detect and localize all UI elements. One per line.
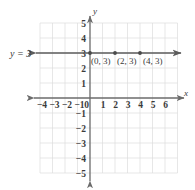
y-tick: −3 <box>76 139 86 149</box>
x-tick: 4 <box>138 100 143 110</box>
y-tick: 4 <box>81 34 86 44</box>
y-tick: −4 <box>76 154 86 164</box>
y-tick: −2 <box>76 124 86 134</box>
graph-canvas: x y −4 −3 −2 −1 0 1 2 3 4 5 6 5 4 3 2 1 … <box>0 0 195 190</box>
x-tick: 2 <box>113 100 118 110</box>
x-tick: 1 <box>101 100 106 110</box>
data-point-2-3 <box>113 51 117 55</box>
x-tick: −4 <box>37 100 47 110</box>
point-label-4-3: (4, 3) <box>143 56 163 66</box>
data-point-4-3 <box>138 51 142 55</box>
point-labels: (0, 3) (2, 3) (4, 3) <box>91 56 163 66</box>
y-axis-label: y <box>92 6 97 16</box>
x-tick: −3 <box>49 100 59 110</box>
x-tick: −2 <box>62 100 72 110</box>
equation-label-y-equals-3: y = 3 <box>9 48 31 59</box>
x-axis-label: x <box>183 88 188 98</box>
figure-background <box>0 0 195 190</box>
y-tick: 2 <box>81 64 86 74</box>
y-tick: 1 <box>81 79 86 89</box>
x-tick: 5 <box>151 100 156 110</box>
y-tick: 5 <box>81 19 86 29</box>
y-tick: −1 <box>76 109 86 119</box>
x-tick: 6 <box>163 100 168 110</box>
x-tick: 3 <box>126 100 131 110</box>
data-point-0-3 <box>88 51 92 55</box>
point-label-0-3: (0, 3) <box>91 56 111 66</box>
coordinate-plane-figure: x y −4 −3 −2 −1 0 1 2 3 4 5 6 5 4 3 2 1 … <box>0 0 195 190</box>
y-tick: −5 <box>76 169 86 179</box>
point-label-2-3: (2, 3) <box>117 56 137 66</box>
